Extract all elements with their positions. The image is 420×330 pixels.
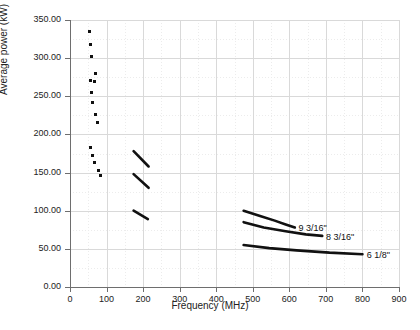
gridline-vertical: [399, 20, 400, 287]
y-axis-label: Average power (kW): [0, 4, 9, 95]
y-tick-label: 300.00: [33, 53, 61, 62]
gridline-vertical: [362, 20, 363, 287]
chart-figure: 0.0050.00100.00150.00200.00250.00300.003…: [0, 0, 420, 330]
gridline-horizontal: [70, 173, 399, 174]
y-tick-label: 150.00: [33, 168, 61, 177]
y-tick-label: 350.00: [33, 15, 61, 24]
minor-gridline-vertical: [125, 20, 126, 287]
y-tick: [65, 211, 70, 212]
plot-area: 0.0050.00100.00150.00200.00250.00300.003…: [70, 20, 399, 287]
gridline-vertical: [143, 20, 144, 287]
data-point: [97, 169, 100, 172]
x-tick: [216, 287, 217, 292]
data-point: [90, 91, 93, 94]
x-tick: [399, 287, 400, 292]
gridline-vertical: [180, 20, 181, 287]
y-tick: [65, 20, 70, 21]
gridline-horizontal: [70, 58, 399, 59]
x-tick: [362, 287, 363, 292]
y-tick-label: 250.00: [33, 91, 61, 100]
data-point: [88, 30, 91, 33]
gridline-horizontal: [70, 211, 399, 212]
x-axis-label: Frequency (MHz): [0, 300, 420, 311]
x-tick: [180, 287, 181, 292]
y-tick: [65, 134, 70, 135]
y-tick-label: 0.00: [43, 282, 61, 291]
y-tick-label: 200.00: [33, 129, 61, 138]
y-axis-line: [70, 20, 71, 287]
data-point: [89, 146, 92, 149]
data-point: [96, 121, 99, 124]
x-tick: [289, 287, 290, 292]
data-point: [94, 72, 97, 75]
gridline-vertical: [289, 20, 290, 287]
y-tick-label: 100.00: [33, 206, 61, 215]
curve-label: 9 3/16": [298, 223, 326, 233]
curve-vhf-band-lower: [134, 211, 148, 219]
x-tick: [107, 287, 108, 292]
minor-gridline-vertical: [161, 20, 162, 287]
x-tick: [253, 287, 254, 292]
minor-gridline-vertical: [381, 20, 382, 287]
curve-vhf-band-middle: [134, 174, 149, 188]
data-point: [90, 55, 93, 58]
data-point: [91, 101, 94, 104]
gridline-horizontal: [70, 134, 399, 135]
x-tick: [143, 287, 144, 292]
gridline-horizontal: [70, 96, 399, 97]
minor-gridline-vertical: [344, 20, 345, 287]
data-point: [99, 174, 102, 177]
x-tick: [70, 287, 71, 292]
minor-gridline-vertical: [88, 20, 89, 287]
y-tick: [65, 58, 70, 59]
y-tick: [65, 173, 70, 174]
y-tick: [65, 249, 70, 250]
curve-label: 8 3/16": [326, 232, 354, 242]
gridline-vertical: [216, 20, 217, 287]
gridline-vertical: [326, 20, 327, 287]
x-tick: [326, 287, 327, 292]
minor-gridline-vertical: [308, 20, 309, 287]
minor-gridline-vertical: [271, 20, 272, 287]
minor-gridline-vertical: [198, 20, 199, 287]
data-point: [89, 43, 92, 46]
minor-gridline-vertical: [235, 20, 236, 287]
gridline-vertical: [107, 20, 108, 287]
x-axis-line: [70, 287, 399, 288]
gridline-horizontal: [70, 249, 399, 250]
gridline-horizontal: [70, 20, 399, 21]
data-point: [93, 80, 96, 83]
curve-label: 6 1/8": [367, 250, 390, 260]
data-point: [93, 161, 96, 164]
data-point: [89, 79, 92, 82]
data-point: [91, 154, 94, 157]
y-tick-label: 50.00: [38, 244, 61, 253]
data-point: [94, 113, 97, 116]
gridline-vertical: [253, 20, 254, 287]
y-tick: [65, 96, 70, 97]
curve-9-3-16-: [244, 211, 295, 228]
